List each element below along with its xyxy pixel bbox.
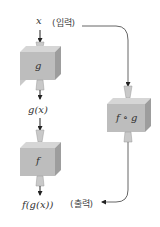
output-wire (102, 142, 128, 202)
funnel-out-g (36, 80, 44, 90)
input-label: x (36, 15, 42, 26)
f-output-label: f(g(x)) (22, 199, 53, 210)
machine-g-label: g (35, 60, 41, 71)
machine-f-label: f (36, 155, 40, 166)
input-wire (82, 26, 128, 86)
input-note: (입력) (52, 16, 75, 29)
machine-f (20, 130, 61, 186)
output-note: (출력) (70, 197, 93, 210)
machine-fog-label: f ∘ g (116, 112, 137, 123)
g-output-label: g(x) (28, 104, 48, 115)
